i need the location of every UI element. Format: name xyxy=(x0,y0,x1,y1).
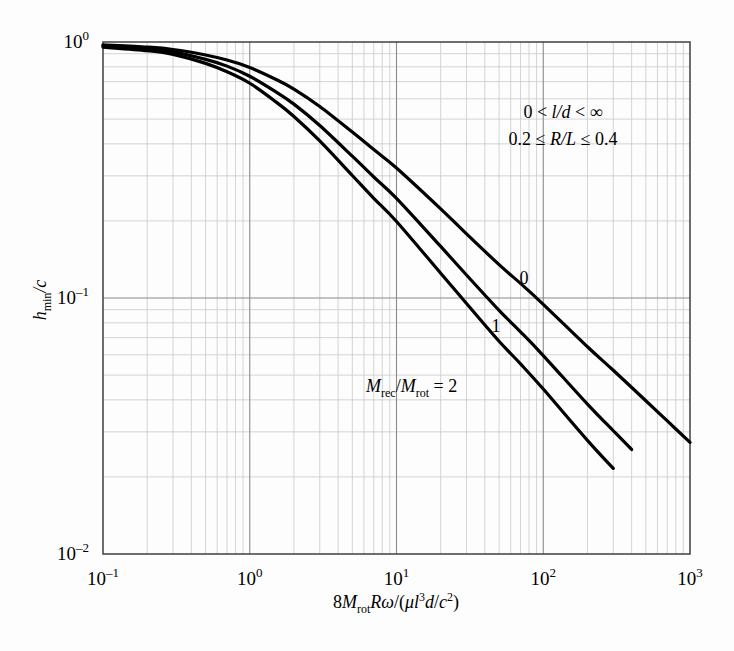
label2-sub-rec: rec xyxy=(381,386,396,400)
y-axis-title-tail: /c xyxy=(30,280,50,294)
figure-container: 10–1100101102103 10010–110–2 hmin/c 8Mro… xyxy=(0,0,734,651)
label2-m1: M xyxy=(365,376,382,396)
x-title-slash-open: /( xyxy=(394,592,405,613)
x-title-lead: 8 xyxy=(333,592,342,612)
label2-m2: M xyxy=(400,376,417,396)
curve-label-zero: 0 xyxy=(520,268,529,288)
annot1-ld: l/d xyxy=(552,102,572,122)
label2-sub-rot: rot xyxy=(416,386,430,400)
label2-eq: = 2 xyxy=(429,376,457,396)
annot2-b: ≤ 0.4 xyxy=(576,129,617,149)
curve-label-one: 1 xyxy=(492,316,501,336)
log-log-plot: 10–1100101102103 10010–110–2 hmin/c 8Mro… xyxy=(0,0,734,651)
annot1-a: 0 < xyxy=(523,102,551,122)
annot2-a: 0.2 ≤ xyxy=(509,129,550,149)
x-title-m: M xyxy=(341,592,358,612)
annot2-rl: R/L xyxy=(549,129,576,149)
x-title-close: ) xyxy=(453,592,459,613)
annot1-b: < ∞ xyxy=(571,102,603,122)
annotation-line-1: 0 < l/d < ∞ xyxy=(523,102,602,122)
x-title-m-sub: rot xyxy=(357,602,371,616)
y-axis-title-sub: min xyxy=(40,293,54,312)
y-axis-title-h: h xyxy=(30,311,50,320)
annotation-line-2: 0.2 ≤ R/L ≤ 0.4 xyxy=(509,129,618,149)
x-title-r: R xyxy=(369,592,381,612)
x-title-c: c xyxy=(439,592,447,612)
x-title-mu: μ xyxy=(404,592,414,612)
x-title-omega: ω xyxy=(381,592,394,612)
